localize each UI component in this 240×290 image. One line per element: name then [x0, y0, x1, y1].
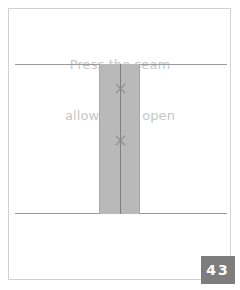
- press-mark-upper-icon: [114, 82, 127, 95]
- press-mark-lower-icon: [114, 134, 127, 147]
- page-number-badge: 43: [201, 256, 235, 284]
- page-number-label: 43: [206, 262, 229, 278]
- seam-diagram: [0, 0, 240, 290]
- page-canvas: Press the seam allowances open 43: [0, 0, 240, 290]
